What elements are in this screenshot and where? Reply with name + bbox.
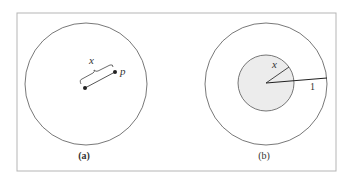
panel-a-center-dot xyxy=(83,86,87,90)
panel-b-x-label: x xyxy=(272,58,277,70)
panel-b-caption: (b) xyxy=(244,150,284,161)
panel-a-brace-icon xyxy=(80,65,113,84)
panel-a xyxy=(25,23,147,145)
panel-a-p-label: p xyxy=(120,65,126,77)
figure-canvas xyxy=(0,0,353,181)
panel-a-caption: (a) xyxy=(64,150,104,161)
panel-a-point-p-dot xyxy=(113,70,117,74)
panel-a-x-label: x xyxy=(89,54,94,66)
panel-a-circle xyxy=(25,23,147,145)
panel-a-segment xyxy=(85,72,115,88)
panel-b xyxy=(205,23,327,145)
panel-b-radius-label: 1 xyxy=(310,81,315,92)
